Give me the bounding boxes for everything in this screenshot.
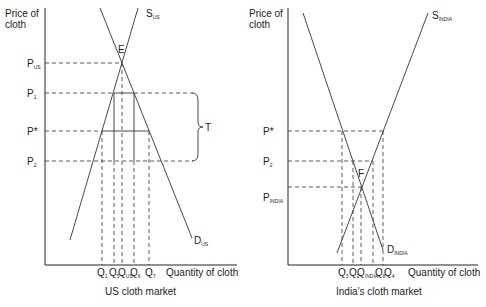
us-cloth-market-panel: Price of cloth SUS DUS E PUS P1 P* P2 T — [5, 8, 238, 297]
tariff-label: T — [205, 122, 211, 133]
price-label-p2: P2 — [263, 156, 273, 168]
panel-title-india: India's cloth market — [336, 286, 422, 297]
y-axis-label: Price of — [5, 8, 39, 19]
demand-label-us: DUS — [194, 235, 209, 247]
qty-label-q1: Q1 — [97, 267, 108, 279]
equilibrium-label-e: E — [118, 44, 125, 55]
demand-curve-india — [303, 13, 383, 250]
price-label-pstar: P* — [263, 126, 274, 137]
qty-label-q7: Q7 — [145, 267, 156, 279]
qty-label-q3: Q3 — [338, 267, 349, 279]
panel-title-us: US cloth market — [105, 286, 176, 297]
price-label-pus: PUS — [27, 58, 41, 70]
trade-diagram: Price of cloth SUS DUS E PUS P1 P* P2 T — [0, 0, 486, 307]
x-axis-label: Quantity of cloth — [408, 267, 480, 278]
price-label-p2: P2 — [27, 156, 37, 168]
y-axis-label-line2: cloth — [249, 19, 270, 30]
y-axis-label: Price of — [249, 8, 283, 19]
tariff-bracket — [192, 93, 203, 161]
supply-label-us: SUS — [146, 8, 160, 20]
india-cloth-market-panel: Price of cloth SINDIA DINDIA F P* P2 PIN… — [249, 8, 480, 297]
qty-label-q4: Q4 — [384, 267, 395, 279]
price-label-p1: P1 — [27, 88, 37, 100]
equilibrium-label-f: F — [358, 168, 364, 179]
supply-label-india: SINDIA — [432, 10, 453, 22]
x-axis-label: Quantity of cloth — [166, 267, 238, 278]
supply-curve-india — [337, 13, 428, 253]
supply-curve-us — [70, 8, 138, 240]
qty-label-q6: Q6 — [130, 267, 141, 279]
price-label-pindia: PINDIA — [263, 192, 284, 204]
demand-label-india: DINDIA — [387, 244, 408, 256]
y-axis-label-line2: cloth — [5, 19, 26, 30]
price-label-pstar: P* — [27, 126, 38, 137]
